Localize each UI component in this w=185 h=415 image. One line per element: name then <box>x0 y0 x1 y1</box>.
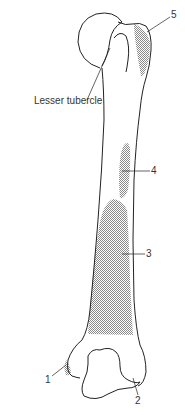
trochlea-outline <box>82 348 140 398</box>
humerus-diagram <box>0 0 185 415</box>
label-1: 1 <box>45 375 51 385</box>
label-lesser-tubercle: Lesser tubercle <box>34 96 102 106</box>
label-4: 4 <box>151 166 157 176</box>
label-2: 2 <box>135 396 141 406</box>
leader-line-lesser-tubercle <box>87 48 110 100</box>
lesser-tubercle-outline <box>114 33 129 72</box>
label-3: 3 <box>146 249 152 259</box>
humeral-head-outline <box>78 13 122 68</box>
region-3-shading <box>88 199 133 335</box>
leader-line-5 <box>147 17 170 32</box>
label-5: 5 <box>171 10 177 20</box>
leader-line-1 <box>52 365 66 376</box>
